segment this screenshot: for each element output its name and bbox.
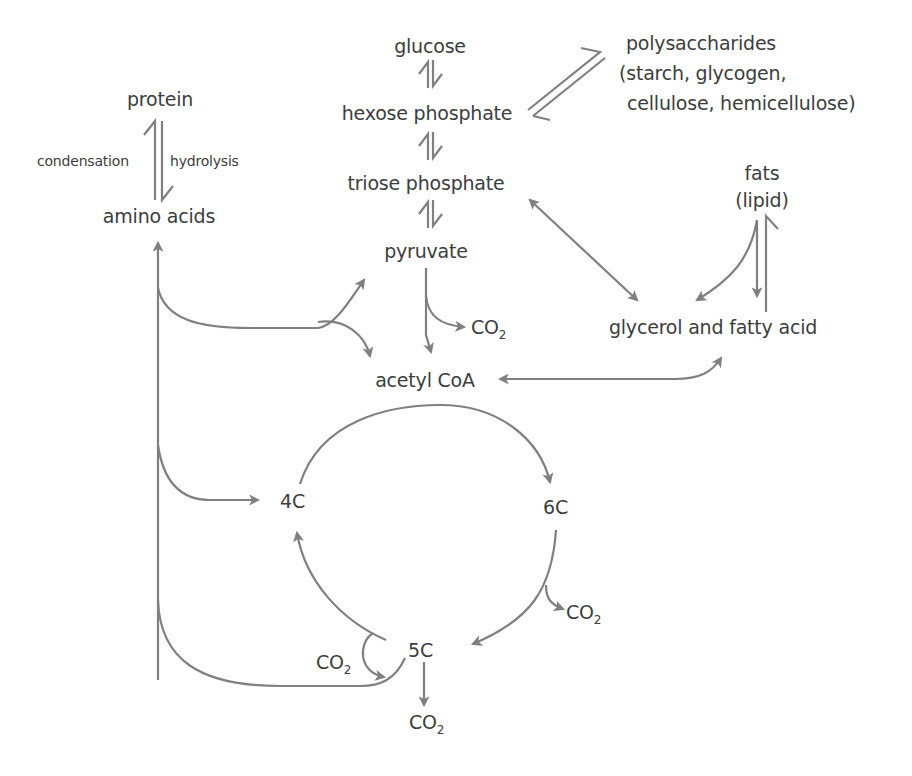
cut-off-caption xyxy=(0,0,912,6)
node-polysaccharides-detail-2: cellulose, hemicellulose) xyxy=(627,92,855,114)
arrow-5c-amino xyxy=(158,600,405,686)
node-4c: 4C xyxy=(280,490,305,512)
arrow-triose-glycerol xyxy=(530,200,637,300)
equilibrium-protein-amino-acids xyxy=(144,121,173,200)
equilibrium-glucose-hexose xyxy=(419,60,442,88)
node-hexose-phosphate: hexose phosphate xyxy=(342,102,513,124)
label-condensation: condensation xyxy=(37,153,129,169)
label-hydrolysis: hydrolysis xyxy=(170,153,239,169)
node-protein: protein xyxy=(127,88,193,110)
node-amino-acids: amino acids xyxy=(103,205,215,227)
node-6c: 6C xyxy=(543,496,568,518)
node-fats: fats xyxy=(745,162,780,184)
arrow-amino-4c xyxy=(158,445,258,500)
node-glucose: glucose xyxy=(394,35,466,57)
arrow-4c-6c xyxy=(300,405,550,484)
arrow-pyruvate-co2 xyxy=(426,296,464,327)
arrow-6c-co2 xyxy=(546,585,563,609)
node-glycerol-fatty-acid: glycerol and fatty acid xyxy=(609,316,817,338)
arrow-fats-glycerol-curve xyxy=(697,220,757,300)
node-lipid: (lipid) xyxy=(735,189,788,211)
equilibrium-triose-pyruvate xyxy=(419,200,442,228)
equilibrium-hexose-triose xyxy=(419,132,442,160)
node-polysaccharides: polysaccharides xyxy=(626,32,776,54)
co2-from-pyruvate: CO2 xyxy=(471,316,506,346)
arrow-acetylcoa-glycerol xyxy=(500,358,721,379)
equilibrium-hexose-polysaccharides xyxy=(528,48,605,120)
co2-from-5c: CO2 xyxy=(409,711,444,741)
node-polysaccharides-detail-1: (starch, glycogen, xyxy=(619,62,786,84)
node-5c: 5C xyxy=(408,639,433,661)
co2-from-6c: CO2 xyxy=(566,601,601,631)
co2-into-5c: CO2 xyxy=(316,651,351,681)
arrow-glycerol-fats xyxy=(766,216,778,312)
node-pyruvate: pyruvate xyxy=(384,240,468,262)
arrow-co2-5c xyxy=(363,633,384,677)
arrow-5c-4c xyxy=(297,533,386,640)
node-triose-phosphate: triose phosphate xyxy=(347,172,504,194)
arrow-6c-5c xyxy=(473,530,556,644)
node-acetyl-coa: acetyl CoA xyxy=(375,369,475,391)
